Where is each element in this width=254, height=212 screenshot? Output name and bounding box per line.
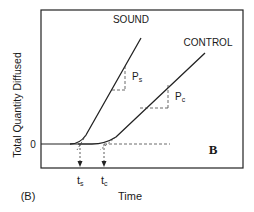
sound-label: SOUND bbox=[113, 14, 149, 25]
ts-label: ts bbox=[77, 174, 84, 187]
y-zero-label: 0 bbox=[30, 139, 36, 150]
ts-arrow-head bbox=[78, 161, 83, 167]
x-axis-label: Time bbox=[118, 190, 142, 202]
panel-letter: B bbox=[209, 142, 218, 157]
ps-label: Ps bbox=[132, 71, 143, 83]
control-label: CONTROL bbox=[184, 37, 233, 48]
y-axis-label: Total Quantity Diffused bbox=[11, 52, 23, 158]
panel-label: (B) bbox=[21, 190, 36, 202]
tc-arrow-head bbox=[102, 161, 107, 167]
tc-label: tc bbox=[101, 174, 108, 187]
pc-label: Pc bbox=[175, 91, 186, 103]
control-curve bbox=[78, 53, 205, 144]
sound-curve bbox=[70, 38, 141, 144]
diffusion-diagram: SOUND CONTROL Ps Pc ts tc 0 Time Total Q… bbox=[0, 0, 254, 212]
